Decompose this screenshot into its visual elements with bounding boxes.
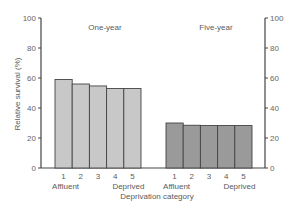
left-tick-label: 40 [27,104,36,113]
category-tick-label: 1 [61,172,66,181]
category-tick-label: 5 [241,172,246,181]
bar [124,89,141,169]
x-axis-title: Deprivation category [120,192,193,201]
deprived-label: Deprived [223,182,255,191]
category-tick-label: 2 [190,172,195,181]
right-tick-label: 20 [270,134,279,143]
bar [55,80,72,169]
category-tick-label: 5 [130,172,135,181]
right-tick-label: 40 [270,104,279,113]
left-tick-label: 20 [27,134,36,143]
category-tick-label: 3 [96,172,101,181]
survival-bar-chart: 020406080100 020406080100 12345AffluentD… [0,0,302,215]
left-tick-label: 80 [27,44,36,53]
bar [235,126,252,168]
bar-group-five-year [166,123,252,168]
right-y-axis: 020406080100 [265,14,284,173]
bar-groups [55,80,252,169]
bar [200,126,217,168]
deprived-label: Deprived [112,182,144,191]
affluent-label: Affluent [52,182,80,191]
right-tick-label: 100 [270,14,284,23]
bar [72,84,89,168]
bar [107,89,124,169]
category-tick-label: 1 [172,172,177,181]
group-title-five-year: Five-year [199,23,233,32]
bar [89,86,106,168]
right-tick-label: 80 [270,44,279,53]
y-axis-title: Relative survival (%) [13,57,22,130]
affluent-label: Affluent [163,182,191,191]
x-axis-labels: 12345AffluentDeprived12345AffluentDepriv… [52,172,255,191]
right-tick-label: 0 [270,164,275,173]
group-title-one-year: One-year [88,23,122,32]
category-tick-label: 2 [79,172,84,181]
category-tick-label: 4 [113,172,118,181]
bar [166,123,183,168]
right-tick-label: 60 [270,74,279,83]
left-tick-label: 0 [32,164,37,173]
bar [183,125,200,168]
left-tick-label: 60 [27,74,36,83]
category-tick-label: 4 [224,172,229,181]
bar [218,126,235,168]
category-tick-label: 3 [207,172,212,181]
left-tick-label: 100 [23,14,37,23]
bar-group-one-year [55,80,141,169]
